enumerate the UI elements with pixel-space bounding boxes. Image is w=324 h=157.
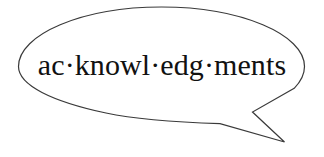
speech-bubble-outline [19,7,305,142]
speech-bubble-graphic [0,0,324,157]
illustration-canvas: ac·knowl·edg·ments [0,0,324,157]
